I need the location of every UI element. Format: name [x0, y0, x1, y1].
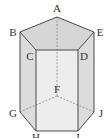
- label-I: I: [76, 131, 80, 138]
- label-A: A: [53, 2, 61, 14]
- label-G: G: [9, 107, 17, 119]
- label-H: H: [32, 131, 40, 138]
- label-J: J: [99, 107, 104, 119]
- label-F: F: [54, 83, 60, 95]
- label-B: B: [9, 26, 16, 38]
- label-E: E: [97, 26, 104, 38]
- label-C: C: [26, 50, 33, 62]
- pentagonal-prism-diagram: A B E C D F G J H I: [0, 0, 111, 138]
- label-D: D: [80, 50, 88, 62]
